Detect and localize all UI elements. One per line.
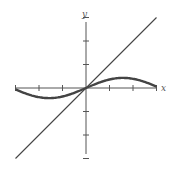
chart: x y <box>0 0 175 169</box>
plot-area: x y <box>0 0 175 169</box>
y-axis-label: y <box>81 9 88 19</box>
x-axis-label: x <box>161 83 166 93</box>
